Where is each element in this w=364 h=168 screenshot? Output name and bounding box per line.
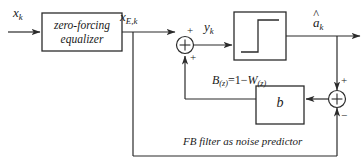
label-adder-output-signal: yk	[204, 20, 214, 33]
block-equalizer-label-line2: equalizer	[45, 32, 119, 46]
label-equalizer-output-signal: xE,k	[120, 10, 137, 23]
adder-right-sign-bottom: −	[341, 110, 347, 121]
diagram-caption: FB filter as noise predictor	[183, 136, 302, 147]
hat-accent-icon: ^	[313, 8, 319, 20]
label-transfer-function-equation: B(z)=1−W(z)	[212, 74, 266, 86]
block-equalizer-label-line1: zero-forcing	[45, 18, 119, 32]
adder-left-sign-top: +	[187, 25, 193, 36]
adder-left-sign-bottom: +	[190, 52, 196, 63]
block-decision-device	[234, 12, 286, 60]
block-equalizer-label: zero-forcing equalizer	[45, 18, 119, 46]
label-decision-output-signal: ^ak	[313, 16, 323, 29]
block-diagram: xk xE,k yk ^ak B(z)=1−W(z) FB filter as …	[0, 0, 364, 168]
label-input-signal: xk	[13, 6, 23, 19]
adder-right-sign-top: +	[341, 75, 347, 86]
block-feedback-filter-label: b	[258, 95, 302, 111]
